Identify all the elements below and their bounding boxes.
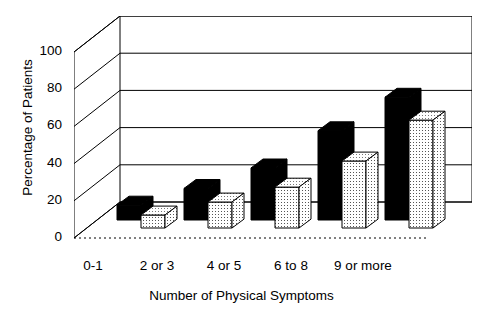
- x-tick-4: 9 or more: [318, 258, 408, 273]
- chart-svg: [74, 16, 472, 248]
- x-tick-2: 4 or 5: [189, 258, 259, 273]
- y-tick-100: 100: [28, 43, 62, 58]
- x-tick-3: 6 to 8: [256, 258, 326, 273]
- plot-area: [74, 16, 472, 248]
- x-tick-1: 2 or 3: [122, 258, 192, 273]
- chart-container: Percentage of Patients: [0, 0, 483, 321]
- x-tick-0: 0-1: [58, 258, 128, 273]
- y-tick-0: 0: [28, 229, 62, 244]
- y-tick-20: 20: [28, 192, 62, 207]
- y-tick-40: 40: [28, 155, 62, 170]
- x-axis-title: Number of Physical Symptoms: [0, 288, 483, 303]
- y-tick-80: 80: [28, 80, 62, 95]
- y-tick-60: 60: [28, 117, 62, 132]
